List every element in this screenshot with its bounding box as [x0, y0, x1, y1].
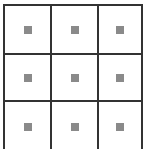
- square-marker-icon: [24, 26, 32, 34]
- grid-cell-r1-c1[interactable]: [5, 6, 52, 55]
- grid-cell-r1-c3[interactable]: [99, 6, 141, 55]
- grid-cell-r3-c3[interactable]: [99, 102, 141, 149]
- grid-cell-r3-c2[interactable]: [52, 102, 99, 149]
- three-by-three-grid: [3, 4, 143, 149]
- square-marker-icon: [24, 123, 32, 131]
- square-marker-icon: [24, 74, 32, 82]
- grid-cell-r2-c3[interactable]: [99, 55, 141, 102]
- square-marker-icon: [116, 74, 124, 82]
- square-marker-icon: [71, 74, 79, 82]
- square-marker-icon: [116, 26, 124, 34]
- grid-cell-r1-c2[interactable]: [52, 6, 99, 55]
- square-marker-icon: [71, 26, 79, 34]
- grid-cell-r2-c2[interactable]: [52, 55, 99, 102]
- grid-cell-r3-c1[interactable]: [5, 102, 52, 149]
- grid-cell-r2-c1[interactable]: [5, 55, 52, 102]
- square-marker-icon: [116, 123, 124, 131]
- square-marker-icon: [71, 123, 79, 131]
